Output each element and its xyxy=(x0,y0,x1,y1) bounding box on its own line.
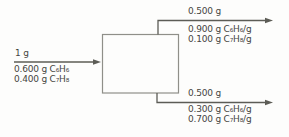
bottoms-total-label: 0.500 g xyxy=(188,88,221,98)
feed-arrowhead-icon xyxy=(93,59,101,65)
flow-diagram: 1 g 0.600 g C₆H₆ 0.400 g C₇H₈ 0.500 g 0.… xyxy=(0,0,289,137)
bottoms-component-label: 0.300 g C₆H₆/g xyxy=(188,104,251,114)
bottoms-arrowhead-icon xyxy=(265,100,273,106)
process-unit-box xyxy=(103,35,179,94)
feed-component-label: 0.600 g C₆H₆ xyxy=(14,64,69,74)
overhead-total-label: 0.500 g xyxy=(188,6,221,16)
feed-total-label: 1 g xyxy=(15,48,29,58)
feed-component-label: 0.400 g C₇H₈ xyxy=(14,74,69,84)
bottoms-component-label: 0.700 g C₇H₈/g xyxy=(188,114,251,124)
overhead-arrowhead-icon xyxy=(265,18,273,24)
overhead-component-label: 0.900 g C₆H₆/g xyxy=(188,24,251,34)
overhead-component-label: 0.100 g C₇H₈/g xyxy=(188,34,251,44)
